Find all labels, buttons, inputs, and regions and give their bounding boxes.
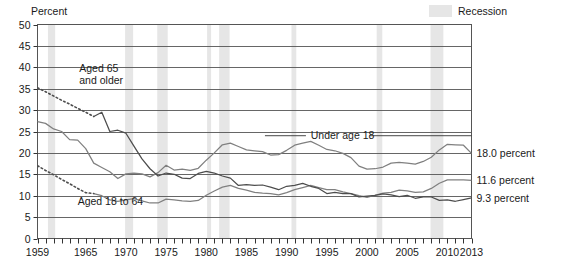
recession-legend-swatch	[429, 5, 452, 17]
recession-band	[157, 25, 167, 239]
y-axis-tick-label: 0	[25, 233, 31, 245]
y-axis-tick-label: 5	[25, 211, 31, 223]
x-axis-tick-label: 1975	[154, 246, 178, 258]
y-axis-tick-label: 30	[19, 104, 31, 116]
x-axis-tick-label: 1970	[114, 246, 138, 258]
y-axis-tick-label: 25	[19, 126, 31, 138]
chart-canvas: 05101520253035404550 1959196519701975198…	[0, 0, 563, 271]
x-axis-tick-label: 2005	[396, 246, 420, 258]
y-axis-tick-label: 15	[19, 168, 31, 180]
recession-band	[377, 25, 383, 239]
end-value-labels-group: 18.0 percent11.6 percent9.3 percent	[477, 147, 535, 204]
x-axis-tick-label: 2000	[355, 246, 379, 258]
x-axis-tick-label: 1959	[26, 246, 50, 258]
recession-band	[207, 25, 211, 239]
y-axis-tick-label: 20	[19, 147, 31, 159]
x-axis-tick-label: 2013	[460, 246, 484, 258]
recession-band	[48, 25, 55, 239]
y-axis-tick-label: 45	[19, 40, 31, 52]
y-axis-tick-label: 10	[19, 190, 31, 202]
end-value-label: 18.0 percent	[477, 147, 535, 159]
y-axis-tick-label: 50	[19, 19, 31, 31]
x-axis-tick-label: 1965	[74, 246, 98, 258]
legend: Recession	[429, 5, 507, 17]
recession-band	[219, 25, 229, 239]
recession-band	[291, 25, 296, 239]
recession-band	[431, 25, 444, 239]
end-value-label: 9.3 percent	[477, 192, 530, 204]
x-axis-tick-label: 1990	[275, 246, 299, 258]
y-axis-tick-label: 40	[19, 61, 31, 73]
y-axis-unit-label: Percent	[31, 5, 67, 17]
y-axis-tick-label: 35	[19, 83, 31, 95]
end-value-label: 11.6 percent	[477, 174, 535, 186]
x-axis-tick-label: 2010	[436, 246, 460, 258]
series-annotation: Aged 65and older	[79, 62, 123, 86]
series-annotation: Under age 18	[311, 129, 375, 141]
x-axis-labels-group: 1959196519701975198019851990199520002005…	[26, 246, 484, 258]
series-annotation: Aged 18 to 64	[78, 195, 144, 207]
poverty-rate-chart: 05101520253035404550 1959196519701975198…	[0, 0, 563, 271]
x-axis-tick-label: 1980	[195, 246, 219, 258]
x-axis-tick-label: 1995	[315, 246, 339, 258]
recession-legend-label: Recession	[458, 5, 507, 17]
x-axis-tick-label: 1985	[235, 246, 259, 258]
